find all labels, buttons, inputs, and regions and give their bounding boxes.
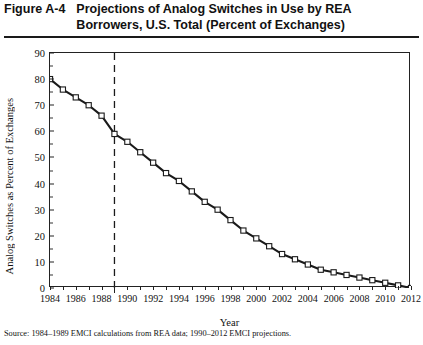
x-axis-tick-mark (127, 286, 128, 290)
x-axis-tick-label: 2002 (272, 293, 292, 304)
data-point-marker (163, 171, 168, 176)
x-axis-tick-label: 2008 (349, 293, 369, 304)
y-axis-minor-tick (50, 222, 53, 223)
y-axis-minor-tick (50, 196, 53, 197)
y-axis-minor-tick (50, 66, 53, 67)
x-axis-tick-label: 2012 (401, 293, 421, 304)
data-point-marker (228, 218, 233, 223)
y-axis-tick-mark (50, 209, 54, 210)
x-axis-tick-mark (63, 286, 64, 290)
x-axis-tick-mark (372, 286, 373, 290)
x-axis-tick-mark (334, 286, 335, 290)
x-axis-tick-mark (205, 286, 206, 290)
figure-title-line-2: Borrowers, U.S. Total (Percent of Exchan… (76, 18, 351, 34)
x-axis-tick-mark (256, 286, 257, 290)
figure-header: Figure A-4 Projections of Analog Switche… (0, 0, 423, 38)
data-point-marker (189, 189, 194, 194)
data-point-marker (241, 228, 246, 233)
x-axis-tick-mark (295, 286, 296, 290)
x-axis-tick-label: 1986 (66, 293, 86, 304)
x-axis-tick-mark (385, 286, 386, 290)
data-point-marker (344, 272, 349, 277)
y-axis-tick-label: 40 (35, 178, 51, 189)
x-axis-tick-mark (347, 286, 348, 290)
plot-frame: 0102030405060708090198419861988199019921… (49, 52, 410, 287)
y-axis-tick-label: 70 (35, 100, 51, 111)
y-axis-tick-label: 50 (35, 152, 51, 163)
x-axis-tick-mark (192, 286, 193, 290)
y-axis-title: Analog Switches as Percent of Exchanges (2, 80, 16, 292)
y-axis-minor-tick (50, 92, 53, 93)
y-axis-minor-tick (50, 118, 53, 119)
figure-title: Projections of Analog Switches in Use by… (76, 2, 351, 33)
y-axis-tick-mark (50, 183, 54, 184)
x-axis-tick-mark (308, 286, 309, 290)
x-axis-tick-label: 2006 (324, 293, 344, 304)
data-point-marker (370, 278, 375, 283)
y-axis-tick-mark (50, 79, 54, 80)
y-axis-tick-mark (50, 261, 54, 262)
data-point-marker (112, 131, 117, 136)
x-axis-tick-label: 1990 (117, 293, 137, 304)
data-point-marker (383, 280, 388, 285)
x-axis-tick-label: 1992 (143, 293, 163, 304)
y-axis-title-text: Analog Switches as Percent of Exchanges (4, 98, 15, 274)
x-axis-tick-mark (102, 286, 103, 290)
x-axis-tick-label: 2004 (298, 293, 318, 304)
plot-inner: 0102030405060708090198419861988199019921… (50, 53, 409, 286)
data-point-marker (305, 262, 310, 267)
data-point-marker (138, 150, 143, 155)
x-axis-tick-mark (398, 286, 399, 290)
header-divider (4, 36, 419, 38)
x-axis-tick-label: 2010 (375, 293, 395, 304)
data-point-marker (99, 113, 104, 118)
x-axis-tick-mark (89, 286, 90, 290)
data-point-marker (331, 270, 336, 275)
y-axis-tick-label: 80 (35, 74, 51, 85)
data-point-marker (60, 87, 65, 92)
x-axis-tick-mark (411, 286, 412, 290)
y-axis-tick-mark (50, 235, 54, 236)
x-axis-title: Year (49, 317, 410, 328)
x-axis-tick-mark (140, 286, 141, 290)
figure-title-line-1: Projections of Analog Switches in Use by… (76, 2, 351, 18)
y-axis-tick-label: 30 (35, 204, 51, 215)
y-axis-tick-mark (50, 53, 54, 54)
x-axis-tick-label: 2000 (246, 293, 266, 304)
y-axis-minor-tick (50, 144, 53, 145)
data-point-marker (267, 244, 272, 249)
x-axis-tick-label: 1996 (195, 293, 215, 304)
chart-area: Analog Switches as Percent of Exchanges … (0, 40, 423, 300)
x-axis-tick-mark (114, 286, 115, 293)
y-axis-tick-label: 60 (35, 126, 51, 137)
x-axis-tick-mark (231, 286, 232, 290)
data-point-marker (86, 103, 91, 108)
data-point-marker (125, 139, 130, 144)
data-point-marker (292, 257, 297, 262)
y-axis-tick-mark (50, 157, 54, 158)
x-axis-tick-mark (321, 286, 322, 290)
data-point-marker (279, 251, 284, 256)
x-axis-tick-mark (166, 286, 167, 290)
data-point-marker (318, 267, 323, 272)
x-axis-tick-label: 1988 (92, 293, 112, 304)
x-axis-tick-mark (153, 286, 154, 290)
x-axis-tick-mark (243, 286, 244, 290)
data-point-marker (357, 275, 362, 280)
figure-number: Figure A-4 (4, 2, 65, 16)
y-axis-minor-tick (50, 248, 53, 249)
y-axis-tick-label: 0 (40, 283, 50, 294)
source-note: Source: 1984–1989 EMCI calculations from… (4, 329, 291, 338)
data-point-marker (73, 95, 78, 100)
x-axis-tick-mark (359, 286, 360, 290)
data-point-marker (202, 199, 207, 204)
x-axis-tick-label: 1984 (40, 293, 60, 304)
x-axis-tick-label: 1998 (221, 293, 241, 304)
y-axis-tick-mark (50, 105, 54, 106)
y-axis-tick-mark (50, 131, 54, 132)
data-point-marker (215, 207, 220, 212)
data-point-marker (254, 236, 259, 241)
x-axis-tick-mark (269, 286, 270, 290)
data-point-marker (176, 178, 181, 183)
data-point-marker (151, 160, 156, 165)
